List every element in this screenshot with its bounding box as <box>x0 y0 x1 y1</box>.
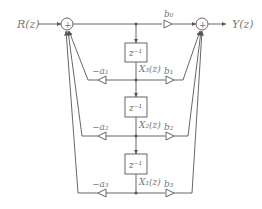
gain-b0-icon <box>164 20 172 28</box>
gain-a3-icon <box>98 189 106 197</box>
delay-label-3: z⁻¹ <box>128 160 142 170</box>
gain-b3-icon <box>166 189 174 197</box>
output-label: Y(z) <box>232 18 254 31</box>
filter-diagram: R(z) Y(z) + + b₀ b₁ b₂ b₃ −a₁ −a₂ −a₃ X₃… <box>0 0 262 209</box>
gain-b1-icon <box>166 76 174 84</box>
state-x2-label: X₂(z) <box>138 120 161 130</box>
gain-a3-label: −a₃ <box>92 179 109 189</box>
gain-a2-label: −a₂ <box>92 122 109 132</box>
gain-a2-icon <box>98 132 106 140</box>
right-summer-sign: + <box>199 20 207 30</box>
gain-a1-label: −a₁ <box>92 66 109 76</box>
state-x1-label: X₁(z) <box>138 177 161 187</box>
gain-b2-icon <box>166 132 174 140</box>
gain-b3-label: b₃ <box>164 179 174 189</box>
input-label: R(z) <box>16 18 40 31</box>
gain-a1-icon <box>98 76 106 84</box>
left-summer-sign: + <box>64 20 72 30</box>
delay-label-1: z⁻¹ <box>128 48 142 58</box>
gain-b0-label: b₀ <box>164 9 174 19</box>
delay-label-2: z⁻¹ <box>128 103 142 113</box>
gain-b1-label: b₁ <box>164 66 173 76</box>
gain-b2-label: b₂ <box>164 122 174 132</box>
state-x3-label: X₃(z) <box>138 64 161 74</box>
